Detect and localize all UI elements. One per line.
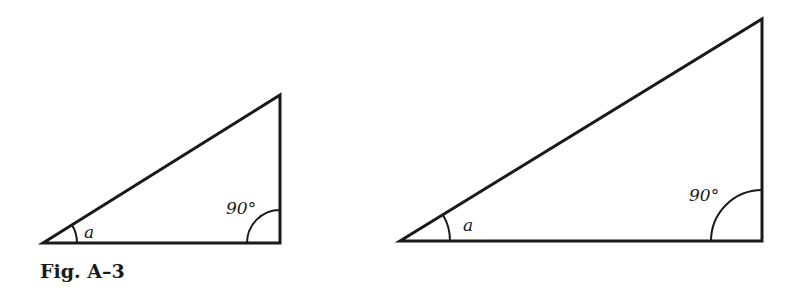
triangle-large: a 90° xyxy=(400,19,762,241)
acute-angle-arc-small xyxy=(72,225,77,243)
triangle-small-outline xyxy=(43,95,280,243)
acute-angle-label-small: a xyxy=(84,222,94,242)
figure-canvas: a 90° a 90° Fig. A–3 xyxy=(0,0,799,294)
triangle-large-outline xyxy=(400,19,762,241)
triangle-small: a 90° xyxy=(43,95,280,243)
right-angle-label-small: 90° xyxy=(226,198,256,218)
right-angle-label-large: 90° xyxy=(689,185,719,205)
acute-angle-arc-large xyxy=(443,215,450,241)
acute-angle-label-large: a xyxy=(463,215,473,235)
figure-caption: Fig. A–3 xyxy=(40,260,125,282)
